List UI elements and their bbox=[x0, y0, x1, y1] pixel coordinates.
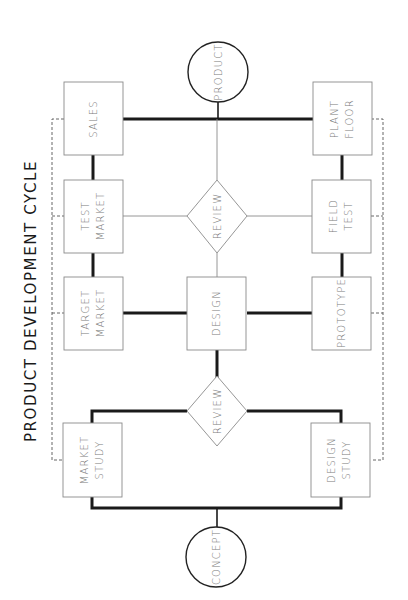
node-review-upper: REVIEW bbox=[187, 180, 247, 253]
node-prototype-label: PROTOTYPE bbox=[336, 278, 347, 348]
product-development-cycle-diagram: PRODUCT DEVELOPMENT CYCLE bbox=[0, 0, 408, 600]
node-concept-label: CONCEPT bbox=[211, 529, 222, 585]
node-test-market: TEST MARKET bbox=[64, 180, 123, 253]
node-product: PRODUCT bbox=[188, 42, 248, 102]
node-design-study-label-line1: DESIGN bbox=[326, 437, 337, 483]
node-review-lower: REVIEW bbox=[187, 376, 247, 446]
node-field-test-label-line2: TEST bbox=[343, 201, 354, 231]
market-feedback-dashed-line bbox=[52, 119, 64, 460]
node-plant-floor-label-line2: FLOOR bbox=[344, 99, 355, 139]
node-design-study-label-line2: STUDY bbox=[341, 440, 352, 479]
node-field-test: FIELD TEST bbox=[312, 180, 371, 253]
node-plant-floor-label-line1: PLANT bbox=[329, 100, 340, 138]
node-sales-label: SALES bbox=[88, 100, 99, 138]
diagram-title: PRODUCT DEVELOPMENT CYCLE bbox=[22, 160, 40, 442]
engineering-feedback-dashed-line bbox=[371, 119, 383, 460]
node-sales: SALES bbox=[64, 82, 123, 155]
node-review-upper-label: REVIEW bbox=[212, 193, 223, 239]
node-design-label: DESIGN bbox=[211, 290, 222, 336]
node-market-study: MARKET STUDY bbox=[63, 423, 122, 497]
node-target-market-label-line1: TARGET bbox=[80, 290, 91, 337]
node-product-label: PRODUCT bbox=[213, 43, 224, 100]
node-target-market: TARGET MARKET bbox=[64, 277, 123, 350]
node-plant-floor: PLANT FLOOR bbox=[313, 82, 372, 155]
node-prototype: PROTOTYPE bbox=[312, 277, 371, 350]
node-field-test-label-line1: FIELD bbox=[328, 199, 339, 233]
node-target-market-label-line2: MARKET bbox=[95, 289, 106, 338]
node-market-study-label-line1: MARKET bbox=[79, 436, 90, 485]
node-design: DESIGN bbox=[187, 277, 246, 350]
node-concept: CONCEPT bbox=[186, 527, 246, 587]
node-market-study-label-line2: STUDY bbox=[94, 440, 105, 479]
node-review-lower-label: REVIEW bbox=[212, 388, 223, 434]
node-test-market-label-line2: MARKET bbox=[95, 192, 106, 241]
node-design-study: DESIGN STUDY bbox=[311, 423, 370, 497]
node-test-market-label-line1: TEST bbox=[80, 201, 91, 231]
